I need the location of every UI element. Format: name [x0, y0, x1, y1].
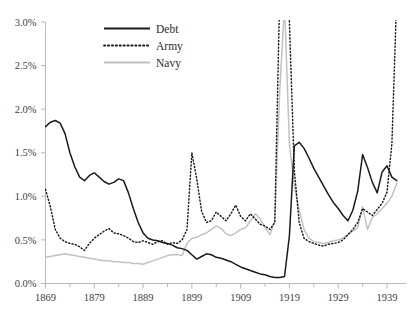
x-tick-label: 1939	[377, 292, 398, 303]
y-axis: 0.0%0.5%1.0%1.5%2.0%2.5%3.0%	[15, 17, 46, 290]
legend-label-army: Army	[156, 40, 183, 53]
chart-legend: Debt Army Navy	[104, 23, 183, 70]
y-tick-label-group: 0.0%0.5%1.0%1.5%2.0%2.5%3.0%	[15, 17, 37, 290]
y-tick-label: 1.5%	[15, 147, 37, 158]
x-tick-label: 1919	[279, 292, 300, 303]
y-tick-label: 2.0%	[15, 104, 37, 115]
series-line-debt	[46, 121, 397, 278]
series-line-army	[46, 0, 397, 250]
x-tick-group	[46, 284, 388, 289]
legend-label-debt: Debt	[156, 23, 179, 35]
x-tick-label-group: 18691879188918991909191919291939	[35, 292, 398, 303]
x-tick-label: 1909	[230, 292, 251, 303]
y-tick-label: 0.0%	[15, 278, 37, 289]
y-tick-label: 1.0%	[15, 191, 37, 202]
chart-figure: 0.0%0.5%1.0%1.5%2.0%2.5%3.0% 18691879188…	[0, 0, 412, 312]
x-tick-label: 1899	[181, 292, 202, 303]
legend-item-army: Army	[104, 40, 183, 53]
x-tick-label: 1889	[133, 292, 154, 303]
x-tick-label: 1929	[328, 292, 349, 303]
legend-item-debt: Debt	[104, 23, 179, 35]
y-tick-group	[41, 22, 46, 284]
x-axis: 18691879188918991909191919291939	[35, 284, 406, 303]
x-tick-label: 1869	[35, 292, 56, 303]
y-tick-label: 2.5%	[15, 60, 37, 71]
x-tick-label: 1879	[84, 292, 105, 303]
plot-area	[46, 0, 397, 277]
legend-label-navy: Navy	[156, 57, 181, 70]
legend-item-navy: Navy	[104, 57, 181, 70]
series-line-navy	[46, 5, 397, 265]
y-tick-label: 0.5%	[15, 235, 37, 246]
line-chart: 0.0%0.5%1.0%1.5%2.0%2.5%3.0% 18691879188…	[0, 0, 412, 312]
y-tick-label: 3.0%	[15, 17, 37, 28]
